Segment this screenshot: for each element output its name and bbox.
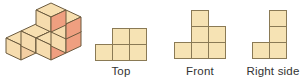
- view-cell: [252, 42, 270, 59]
- isometric-cube-stack: [0, 0, 95, 76]
- view-right-side: [252, 10, 287, 60]
- view-cell: [112, 44, 130, 61]
- view-cell: [95, 44, 113, 61]
- view-cell: [191, 42, 209, 59]
- view-cell: [208, 26, 226, 43]
- view-cell: [129, 44, 147, 61]
- view-front: [174, 10, 226, 60]
- view-cell: [269, 42, 287, 59]
- view-cell: [208, 42, 226, 59]
- view-cell: [112, 28, 130, 45]
- view-label-top: Top: [91, 65, 151, 77]
- isometric-cube-stack-svg: [0, 0, 95, 72]
- view-cell: [191, 26, 209, 43]
- view-cell: [129, 28, 147, 45]
- view-cell: [174, 42, 192, 59]
- view-cell: [269, 26, 287, 43]
- view-label-right-side: Right side: [240, 65, 306, 77]
- view-top: [95, 28, 147, 60]
- view-cell: [191, 10, 209, 27]
- view-label-front: Front: [170, 65, 230, 77]
- projection-diagram: Top Front Right side: [0, 0, 306, 84]
- view-cell: [269, 10, 287, 27]
